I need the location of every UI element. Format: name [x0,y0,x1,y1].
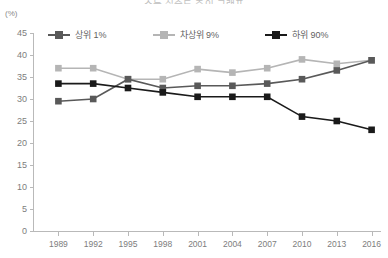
y-axis-tick-label: 25 [17,116,27,126]
data-point-marker [194,83,201,90]
x-axis-tick-label: 2013 [327,239,346,249]
data-point-marker [229,94,236,101]
y-axis-tick-label: 35 [17,72,27,82]
x-axis-tick [232,232,233,236]
y-axis-tick-label: 20 [17,138,27,148]
x-axis-tick-label: 2016 [362,239,381,249]
data-point-marker [90,80,97,87]
y-axis-tick-label: 10 [17,182,27,192]
chart-title: 소득 집중도 추이 그래프 [0,0,388,4]
x-axis-tick [163,232,164,236]
x-axis-tick [302,232,303,236]
data-point-marker [55,80,62,87]
chart-container: 소득 집중도 추이 그래프 (%) 상위 1%차상위 9%하위 90% 0510… [0,0,388,258]
x-axis-tick-label: 2001 [188,239,207,249]
x-axis-tick [58,232,59,236]
data-point-marker [90,96,97,103]
x-axis-tick [93,232,94,236]
x-axis-tick-label: 1992 [84,239,103,249]
x-axis-tick [337,232,338,236]
data-point-marker [194,66,201,73]
data-point-marker [299,113,306,120]
plot-area [33,33,381,231]
x-axis-tick-label: 2010 [293,239,312,249]
x-axis-tick-label: 2004 [223,239,242,249]
data-point-marker [160,89,167,96]
series-lines [33,33,381,231]
series-line [58,60,371,101]
x-axis-tick [198,232,199,236]
data-point-marker [334,67,341,74]
x-axis-tick [267,232,268,236]
y-axis-tick-label: 5 [22,204,27,214]
data-point-marker [368,127,375,134]
x-axis-tick-label: 1998 [153,239,172,249]
data-point-marker [334,118,341,125]
x-axis: 1989199219951998200120042007201020132016 [33,232,381,256]
x-axis-tick-label: 1989 [49,239,68,249]
data-point-marker [125,85,132,92]
data-point-marker [334,61,341,68]
x-axis-tick [372,232,373,236]
data-point-marker [90,65,97,72]
y-axis-tick-label: 15 [17,160,27,170]
series-2 [55,56,375,82]
data-point-marker [55,98,62,105]
data-point-marker [125,76,132,83]
data-point-marker [194,94,201,101]
y-axis-tick-label: 45 [17,28,27,38]
x-axis-tick-label: 2007 [258,239,277,249]
x-axis-tick [128,232,129,236]
y-axis-tick-label: 0 [22,226,27,236]
data-point-marker [264,94,271,101]
data-point-marker [264,65,271,72]
data-point-marker [229,83,236,90]
data-point-marker [264,80,271,87]
series-3 [55,80,375,133]
y-axis: 051015202530354045 [0,33,33,232]
y-axis-unit-label: (%) [5,9,17,18]
series-line [58,84,371,130]
data-point-marker [368,57,375,64]
data-point-marker [55,65,62,72]
data-point-marker [229,69,236,76]
y-axis-tick-label: 30 [17,94,27,104]
data-point-marker [160,76,167,83]
series-line [58,59,371,79]
data-point-marker [299,56,306,63]
data-point-marker [299,76,306,83]
x-axis-tick-label: 1995 [119,239,138,249]
y-axis-tick-label: 40 [17,50,27,60]
